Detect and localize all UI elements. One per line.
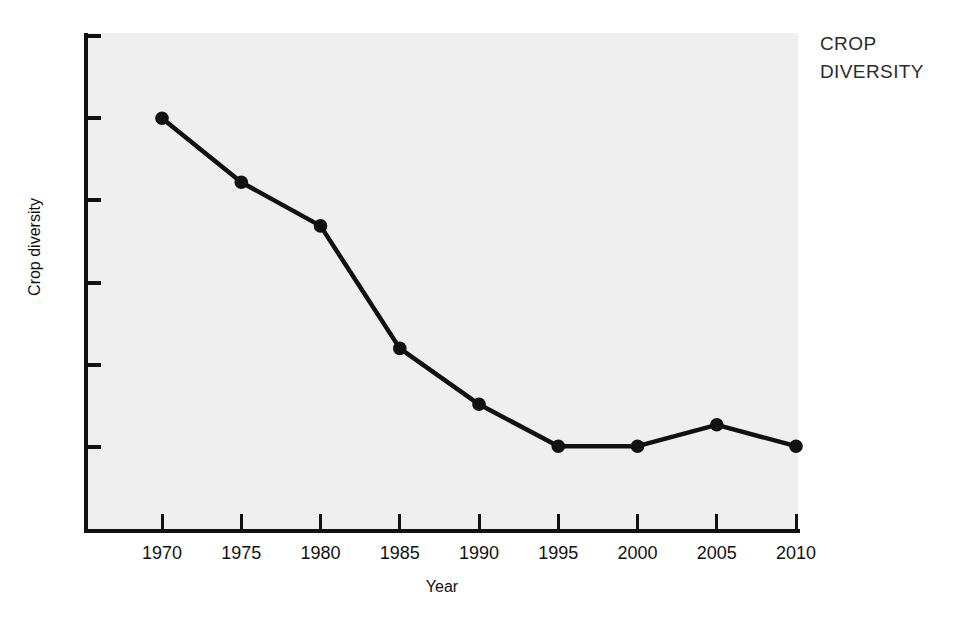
x-tick-2000 [636, 514, 639, 531]
x-tick-label-1995: 1995 [523, 543, 593, 564]
x-tick-1990 [478, 514, 481, 531]
x-tick-1970 [161, 514, 164, 531]
plot-area-background [86, 33, 798, 529]
x-tick-2005 [715, 514, 718, 531]
x-tick-1995 [557, 514, 560, 531]
x-tick-label-1975: 1975 [206, 543, 276, 564]
y-tick-4 [84, 116, 101, 120]
chart-corner-title: CROP DIVERSITY [820, 30, 950, 86]
x-tick-label-1970: 1970 [127, 543, 197, 564]
y-axis-title: Crop diversity [26, 167, 44, 327]
x-tick-label-1990: 1990 [444, 543, 514, 564]
crop-diversity-figure: 197019751980198519901995200020052010 Yea… [0, 0, 958, 617]
x-tick-label-2010: 2010 [761, 543, 831, 564]
x-tick-label-2005: 2005 [682, 543, 752, 564]
y-tick-1 [84, 363, 101, 367]
x-tick-label-1985: 1985 [365, 543, 435, 564]
y-tick-5 [84, 34, 101, 38]
x-tick-1985 [398, 514, 401, 531]
x-axis-title: Year [0, 578, 884, 596]
y-tick-3 [84, 198, 101, 202]
y-tick-2 [84, 281, 101, 285]
x-tick-1975 [240, 514, 243, 531]
x-axis-line [84, 529, 800, 533]
x-tick-2010 [795, 514, 798, 531]
y-tick-0 [84, 445, 101, 449]
x-tick-1980 [319, 514, 322, 531]
x-tick-label-2000: 2000 [603, 543, 673, 564]
x-tick-label-1980: 1980 [286, 543, 356, 564]
